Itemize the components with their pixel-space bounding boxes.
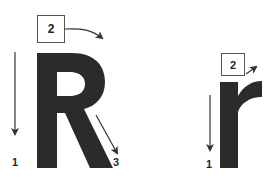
lowercase-step2-label: 2 <box>230 59 236 71</box>
uppercase-step1-label: 1 <box>12 157 18 168</box>
stroke-order-diagram: 2 1 3 2 1 <box>0 0 273 182</box>
uppercase-r-glyph <box>37 53 113 168</box>
lowercase-step1-label: 1 <box>206 159 212 170</box>
lowercase-step2-arrow-icon <box>246 67 256 74</box>
lowercase-r-glyph <box>220 81 262 168</box>
uppercase-step2-label: 2 <box>48 22 55 36</box>
uppercase-step2-arrow-icon <box>65 29 102 38</box>
lowercase-step2-box: 2 <box>221 53 245 76</box>
uppercase-step2-box: 2 <box>37 15 65 43</box>
uppercase-step3-label: 3 <box>113 157 119 168</box>
